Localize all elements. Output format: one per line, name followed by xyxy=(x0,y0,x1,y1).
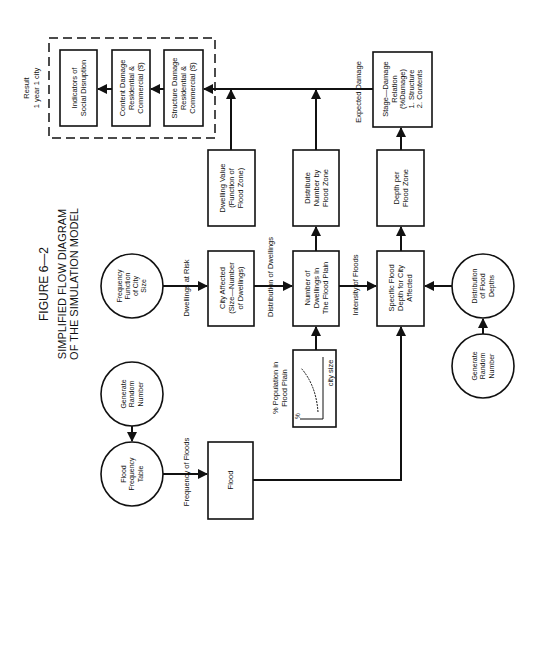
city-affected-text-line: City Affected xyxy=(218,267,227,309)
result-label-line: 1 year 1 city xyxy=(32,68,41,109)
random-right-text-line: Generate xyxy=(471,351,478,380)
distribute-number-text-line: Distribute xyxy=(303,172,312,204)
label-intensity-floods-line: Intensity of Floods xyxy=(351,254,360,315)
label-dwellings-at-risk: Dwellings at Risk xyxy=(182,259,191,316)
random-right-text-line: Random xyxy=(479,353,486,380)
result-label: Result1 year 1 city xyxy=(22,68,41,109)
number-dwellings-text-line: Dwellings In xyxy=(312,268,321,308)
distribution-depths-text-line: of Flood xyxy=(479,273,486,298)
depth-per-zone-text-line: Flood Zone xyxy=(401,169,410,207)
pop-inset-xaxis: city size xyxy=(326,360,335,387)
city-affected-text-line: of Dwellings) xyxy=(236,266,245,309)
label-expected-damage-line: Expected Damage xyxy=(354,61,363,123)
pop-inset-title-line: % Population in xyxy=(271,362,280,414)
label-distribution-dwellings-line: Distribution of Dwellings xyxy=(266,237,275,317)
frequency-city-size-text-line: Size xyxy=(140,279,147,293)
dwelling-value-text: Dwelling Value(Function ofFlood Zone) xyxy=(218,163,245,212)
distribute-number-text-line: Number by xyxy=(312,169,321,206)
specific-depth-text-line: Affected xyxy=(405,274,414,301)
indicators-text-line: Indicators of xyxy=(70,67,79,109)
distribution-depths-text-line: Distribution xyxy=(471,268,478,303)
label-frequency-floods-line: Frequency of Floods xyxy=(182,438,191,507)
random-left-text-line: Generate xyxy=(120,379,127,408)
dwelling-value-text-line: (Function of xyxy=(227,167,236,208)
flood-freq-table-text-line: Frequency xyxy=(128,457,136,491)
figure-title-line: OF THE SIMULATION MODEL xyxy=(68,208,80,360)
depth-per-zone-text-line: Depth per xyxy=(392,171,401,204)
label-frequency-floods: Frequency of Floods xyxy=(182,438,191,507)
random-right-text: GenerateRandomNumber xyxy=(471,351,495,380)
label-dwellings-at-risk-line: Dwellings at Risk xyxy=(182,259,191,316)
random-left-text-line: Random xyxy=(128,381,135,408)
pop-inset-xaxis-line: city size xyxy=(326,360,335,387)
distribute-number-text: DistributeNumber byFlood Zone xyxy=(303,169,330,207)
flood-text: Flood xyxy=(226,471,235,490)
result-label-line: Result xyxy=(22,76,31,98)
structure-damage-text-line: Structure Damage xyxy=(170,58,179,119)
figure-title-line: SIMPLIFIED FLOW DIAGRAM xyxy=(56,209,68,359)
figure-number: FIGURE 6—2 xyxy=(37,247,51,321)
content-damage-text: Content DamageResidential &Commercial ($… xyxy=(118,60,145,117)
depth-per-zone-text: Depth perFlood Zone xyxy=(392,169,410,207)
label-intensity-floods: Intensity of Floods xyxy=(351,254,360,315)
pop-inset-title: % Population inFlood Plain xyxy=(271,362,289,414)
content-damage-text-line: Content Damage xyxy=(118,60,127,117)
content-damage-text-line: Commercial ($) xyxy=(136,62,145,114)
dwelling-value-text-line: Dwelling Value xyxy=(218,163,227,212)
indicators-text-line: Social Disruption xyxy=(79,60,88,116)
frequency-city-size-text-line: of City xyxy=(132,276,140,296)
pop-inset-title-line: Flood Plain xyxy=(280,369,289,407)
figure-title: SIMPLIFIED FLOW DIAGRAMOF THE SIMULATION… xyxy=(56,208,80,360)
number-dwellings-text-line: The Flood Plain xyxy=(321,262,330,315)
flood-text-line: Flood xyxy=(226,471,235,490)
dwelling-value-text-line: Flood Zone) xyxy=(236,167,245,208)
pop-inset-yaxis-line: % xyxy=(294,413,301,419)
content-damage-text-line: Residential & xyxy=(127,66,136,110)
structure-damage-text: Structure DamageResidential &Commercial … xyxy=(170,58,197,119)
number-dwellings-text-line: Number of xyxy=(303,270,312,306)
distribution-depths-text-line: Depths xyxy=(488,274,496,297)
specific-depth-text-line: Specific Flood xyxy=(387,264,396,311)
city-affected-text-line: (Size—Number xyxy=(227,262,236,314)
frequency-city-size-text-line: Frequency xyxy=(116,269,124,303)
flow-diagram: FIGURE 6—2SIMPLIFIED FLOW DIAGRAMOF THE … xyxy=(0,0,543,649)
label-expected-damage: Expected Damage xyxy=(354,61,363,123)
random-left-text: GenerateRandomNumber xyxy=(120,379,144,408)
stage-damage-text-line: 2. Contents xyxy=(415,70,424,109)
city-affected-text: City Affected(Size—Numberof Dwellings) xyxy=(218,262,245,314)
random-right-text-line: Number xyxy=(488,353,495,379)
structure-damage-text-line: Commercial ($) xyxy=(188,62,197,114)
specific-depth-text-line: Depth for City xyxy=(396,265,405,311)
frequency-city-size-text-line: Function xyxy=(124,272,131,299)
structure-damage-text-line: Residential & xyxy=(179,66,188,110)
random-left-text-line: Number xyxy=(137,381,144,407)
indicators-text: Indicators ofSocial Disruption xyxy=(70,60,88,116)
flood-freq-table-text-line: Table xyxy=(137,466,144,483)
figure-number-line: FIGURE 6—2 xyxy=(37,247,51,321)
label-distribution-dwellings: Distribution of Dwellings xyxy=(266,237,275,317)
distribute-number-text-line: Flood Zone xyxy=(321,169,330,207)
flood-freq-table-text-line: Flood xyxy=(120,465,127,483)
pop-inset-yaxis: % xyxy=(294,413,301,419)
